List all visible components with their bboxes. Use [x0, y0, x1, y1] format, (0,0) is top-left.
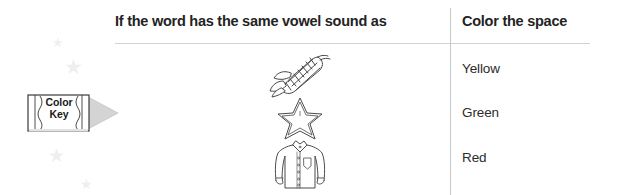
column-divider — [450, 8, 451, 195]
corn-icon — [269, 54, 331, 98]
color-label-yellow: Yellow — [462, 61, 500, 76]
color-key-label: Color Key — [34, 96, 84, 121]
decorative-star-icon: ★ — [52, 36, 64, 49]
table-row-picture-star — [255, 96, 345, 142]
star-icon — [276, 96, 324, 142]
table-row-picture-shirt — [255, 137, 345, 193]
color-key-line1: Color — [34, 96, 84, 108]
column-header-word: If the word has the same vowel sound as — [115, 13, 386, 29]
color-label-red: Red — [462, 150, 486, 165]
decorative-star-icon: ★ — [48, 146, 65, 165]
column-header-color: Color the space — [462, 13, 567, 29]
worksheet-page: ★★★★ Color Key If the word has the same … — [0, 0, 617, 195]
header-rule — [115, 43, 590, 44]
decorative-star-icon: ★ — [64, 56, 83, 77]
decorative-star-icon: ★ — [80, 177, 93, 191]
table-row-picture-corn — [255, 53, 345, 99]
color-key-line2: Key — [34, 108, 84, 120]
color-label-green: Green — [462, 105, 499, 120]
shirt-icon — [272, 138, 328, 192]
